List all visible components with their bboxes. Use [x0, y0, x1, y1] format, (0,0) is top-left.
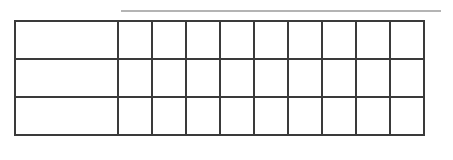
grid-cell[interactable]	[390, 59, 424, 97]
row-label-cell[interactable]	[15, 97, 118, 135]
grid-cell[interactable]	[152, 97, 186, 135]
grid-cell[interactable]	[118, 21, 152, 59]
grid-cell[interactable]	[254, 21, 288, 59]
grid-cell[interactable]	[152, 21, 186, 59]
grid-cell[interactable]	[288, 21, 322, 59]
grid-cell[interactable]	[186, 97, 220, 135]
blank-grid-table	[14, 20, 425, 136]
grid-cell[interactable]	[288, 59, 322, 97]
table-row	[15, 97, 424, 135]
grid-cell[interactable]	[220, 21, 254, 59]
grid-cell[interactable]	[390, 21, 424, 59]
grid-cell[interactable]	[322, 97, 356, 135]
grid-cell[interactable]	[322, 59, 356, 97]
grid-cell[interactable]	[356, 59, 390, 97]
row-label-cell[interactable]	[15, 21, 118, 59]
row-label-cell[interactable]	[15, 59, 118, 97]
table-row	[15, 59, 424, 97]
grid-cell[interactable]	[186, 21, 220, 59]
grid-cell[interactable]	[186, 59, 220, 97]
header-rule	[121, 10, 441, 12]
grid-cell[interactable]	[220, 97, 254, 135]
grid-cell[interactable]	[322, 21, 356, 59]
grid-cell[interactable]	[390, 97, 424, 135]
grid-cell[interactable]	[118, 59, 152, 97]
grid-cell[interactable]	[152, 59, 186, 97]
grid-cell[interactable]	[288, 97, 322, 135]
grid-cell[interactable]	[118, 97, 152, 135]
grid-cell[interactable]	[356, 97, 390, 135]
table-row	[15, 21, 424, 59]
grid-cell[interactable]	[254, 97, 288, 135]
grid-cell[interactable]	[254, 59, 288, 97]
grid-cell[interactable]	[220, 59, 254, 97]
grid-cell[interactable]	[356, 21, 390, 59]
